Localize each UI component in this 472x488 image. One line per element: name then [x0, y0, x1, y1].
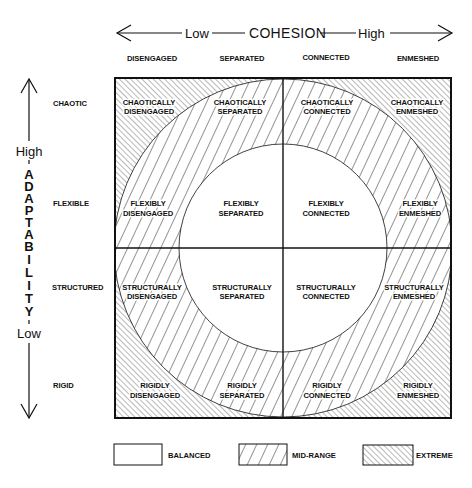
legend-item-extreme: EXTREME — [363, 445, 453, 465]
cell-label: ENMESHED — [397, 391, 440, 400]
cell-label: FLEXIBLY — [130, 199, 165, 208]
cell-label: CHAOTICALLY — [301, 98, 354, 107]
legend-label: BALANCED — [168, 451, 211, 460]
cell-label: SEPARATED — [219, 209, 264, 218]
cell-label: STRUCTURALLY — [212, 283, 272, 292]
adaptability-level-flexible: FLEXIBLE — [53, 199, 89, 208]
cohesion-levels: DISENGAGED SEPARATED CONNECTED ENMESHED — [127, 53, 440, 63]
mid-range-swatch — [239, 444, 287, 465]
adaptability-low-label: Low — [17, 326, 41, 341]
cell-label: STRUCTURALLY — [384, 283, 444, 292]
cell-label: SEPARATED — [220, 292, 265, 301]
balanced-swatch — [114, 444, 162, 465]
cell-label: RIGIDLY — [403, 381, 432, 390]
cell-label: DISENGAGED — [123, 209, 174, 218]
adaptability-axis-title: A D A P T A B I L I T Y — [24, 167, 34, 319]
cohesion-level-enmeshed: ENMESHED — [397, 54, 440, 63]
cohesion-level-disengaged: DISENGAGED — [127, 54, 178, 63]
cell-label: CHAOTICALLY — [391, 98, 444, 107]
legend: BALANCED MID-RANGE EXTREME — [114, 444, 453, 465]
cell-label: FLEXIBLY — [223, 199, 258, 208]
cohesion-level-separated: SEPARATED — [220, 54, 265, 63]
adaptability-levels: CHAOTIC FLEXIBLE STRUCTURED RIGID — [52, 99, 104, 390]
cell-label: CONNECTED — [302, 209, 350, 218]
cell-label: RIGIDLY — [140, 381, 169, 390]
cell-label: CONNECTED — [303, 107, 351, 116]
cell-label: FLEXIBLY — [308, 199, 343, 208]
circumplex-grid — [114, 78, 452, 418]
cell-label: STRUCTURALLY — [296, 283, 356, 292]
adaptability-level-rigid: RIGID — [53, 381, 74, 390]
extreme-swatch — [363, 445, 413, 465]
cohesion-axis-title: COHESION — [249, 25, 326, 41]
cell-label: ENMESHED — [393, 292, 436, 301]
cohesion-level-connected: CONNECTED — [302, 53, 350, 62]
cohesion-high-label: High — [358, 26, 385, 41]
cell-label: SEPARATED — [220, 391, 265, 400]
cohesion-axis: Low COHESION High — [117, 25, 452, 41]
cell-label: CONNECTED — [303, 391, 351, 400]
cell-label: ENMESHED — [396, 107, 439, 116]
adaptability-level-structured: STRUCTURED — [52, 283, 104, 292]
cell-label: DISENGAGED — [127, 292, 178, 301]
cell-label: ENMESHED — [399, 209, 442, 218]
adaptability-level-chaotic: CHAOTIC — [53, 99, 88, 108]
cell-label: CONNECTED — [302, 292, 350, 301]
cell-label: DISENGAGED — [124, 107, 175, 116]
adaptability-axis: High A D A P T A B I L I T Y Low — [16, 79, 43, 418]
legend-item-mid-range: MID-RANGE — [239, 444, 336, 465]
cell-label: SEPARATED — [218, 107, 263, 116]
cell-label: RIGIDLY — [312, 381, 341, 390]
cohesion-low-label: Low — [185, 26, 209, 41]
adaptability-high-label: High — [16, 144, 43, 159]
cell-label: FLEXIBLY — [402, 199, 437, 208]
cell-label: CHAOTICALLY — [214, 98, 267, 107]
adaptability-letter: Y — [25, 304, 34, 319]
cell-label: RIGIDLY — [227, 381, 256, 390]
cell-label: STRUCTURALLY — [122, 283, 182, 292]
cell-label: CHAOTICALLY — [123, 98, 176, 107]
legend-label: MID-RANGE — [292, 451, 336, 460]
cell-label: DISENGAGED — [130, 391, 181, 400]
circumplex-model-figure: Low COHESION High DISENGAGED SEPARATED C… — [0, 0, 472, 488]
legend-label: EXTREME — [416, 451, 453, 460]
legend-item-balanced: BALANCED — [114, 444, 211, 465]
